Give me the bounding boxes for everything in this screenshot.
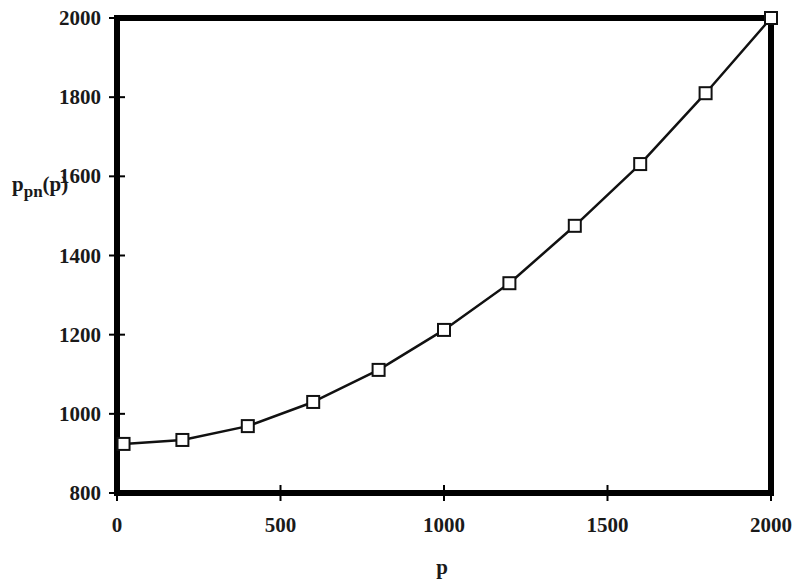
y-axis-title-suffix: (p) [43, 172, 69, 196]
plot-frame [117, 18, 771, 493]
y-tick-label: 1000 [59, 402, 101, 426]
x-tick-label: 2000 [750, 513, 792, 537]
x-tick-label: 1000 [423, 513, 465, 537]
data-point-marker [634, 158, 646, 170]
data-series-markers [118, 12, 777, 450]
data-series-line [124, 18, 771, 444]
data-point-marker [438, 324, 450, 336]
data-point-marker [307, 396, 319, 408]
series-polyline [124, 18, 771, 444]
y-axis-title-base: p [12, 172, 24, 196]
data-point-marker [700, 87, 712, 99]
y-tick-label: 1800 [59, 85, 101, 109]
x-tick-label: 1500 [587, 513, 629, 537]
y-tick-label: 800 [70, 481, 102, 505]
x-axis-title: p [436, 555, 448, 579]
data-point-marker [242, 420, 254, 432]
x-tick-label: 500 [265, 513, 297, 537]
data-point-marker [373, 364, 385, 376]
data-point-marker [176, 434, 188, 446]
data-point-marker [569, 220, 581, 232]
y-axis-title-subscript: pn [24, 182, 43, 201]
y-tick-label: 1200 [59, 323, 101, 347]
line-chart: 800100012001400160018002000 050010001500… [0, 0, 795, 582]
y-axis-title: ppn(p) [12, 172, 68, 201]
x-tick-label: 0 [112, 513, 123, 537]
data-point-marker [503, 277, 515, 289]
data-point-marker [765, 12, 777, 24]
data-point-marker [118, 438, 130, 450]
y-tick-label: 2000 [59, 6, 101, 30]
y-tick-label: 1400 [59, 244, 101, 268]
